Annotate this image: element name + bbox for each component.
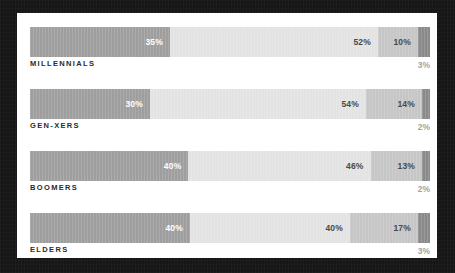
segment-value-label: 52% <box>353 37 378 47</box>
bar-group: 40%46%13%BOOMERS2% <box>30 151 430 200</box>
segment-value-label: 46% <box>346 161 371 171</box>
category-label: GEN-XERS <box>30 121 80 130</box>
segment-value-label: 54% <box>341 99 366 109</box>
bar-segment[interactable]: 30% <box>30 89 150 119</box>
category-label: ELDERS <box>30 245 69 254</box>
chart-card: 35%52%10%MILLENNIALS3%30%54%14%GEN-XERS2… <box>17 13 437 258</box>
segment-value-label: 40% <box>325 223 350 233</box>
segment-value-label-outside: 2% <box>418 122 430 132</box>
bar-segment[interactable]: 40% <box>190 213 350 243</box>
bar-segment[interactable]: 17% <box>350 213 418 243</box>
segment-value-label: 10% <box>393 37 418 47</box>
segment-value-label-outside: 2% <box>418 184 430 194</box>
bar-segment[interactable]: 54% <box>150 89 366 119</box>
bar-segment[interactable]: 52% <box>170 27 378 57</box>
bar-caption-row: GEN-XERS2% <box>30 121 430 138</box>
segment-value-label: 17% <box>393 223 418 233</box>
bar-group: 30%54%14%GEN-XERS2% <box>30 89 430 138</box>
bar-segment[interactable]: 35% <box>30 27 170 57</box>
segment-value-label: 14% <box>397 99 422 109</box>
bar-group: 35%52%10%MILLENNIALS3% <box>30 27 430 76</box>
bar-segment[interactable]: 10% <box>378 27 418 57</box>
bar-segment[interactable]: 40% <box>30 151 188 181</box>
stacked-bar: 40%40%17% <box>30 213 430 243</box>
bar-caption-row: ELDERS3% <box>30 245 430 262</box>
segment-value-label: 30% <box>125 99 150 109</box>
stacked-bar: 35%52%10% <box>30 27 430 57</box>
segment-value-label: 40% <box>164 161 189 171</box>
segment-value-label-outside: 3% <box>418 246 430 256</box>
bar-segment[interactable] <box>422 151 430 181</box>
segment-value-label: 13% <box>397 161 422 171</box>
category-label: MILLENNIALS <box>30 59 95 68</box>
bar-segment[interactable]: 46% <box>188 151 370 181</box>
stacked-bar: 40%46%13% <box>30 151 430 181</box>
segment-value-label: 35% <box>145 37 170 47</box>
bar-segment[interactable]: 40% <box>30 213 190 243</box>
bar-caption-row: MILLENNIALS3% <box>30 59 430 76</box>
bar-caption-row: BOOMERS2% <box>30 183 430 200</box>
bar-segment[interactable] <box>418 213 430 243</box>
segment-value-label-outside: 3% <box>418 60 430 70</box>
stacked-bar: 30%54%14% <box>30 89 430 119</box>
segment-value-label: 40% <box>165 223 190 233</box>
bar-segment[interactable]: 13% <box>371 151 422 181</box>
bar-segment[interactable]: 14% <box>366 89 422 119</box>
bar-segment[interactable] <box>422 89 430 119</box>
stacked-bar-chart: 35%52%10%MILLENNIALS3%30%54%14%GEN-XERS2… <box>30 27 430 262</box>
image-frame: 35%52%10%MILLENNIALS3%30%54%14%GEN-XERS2… <box>0 0 455 273</box>
bar-segment[interactable] <box>418 27 430 57</box>
bar-group: 40%40%17%ELDERS3% <box>30 213 430 262</box>
category-label: BOOMERS <box>30 183 78 192</box>
